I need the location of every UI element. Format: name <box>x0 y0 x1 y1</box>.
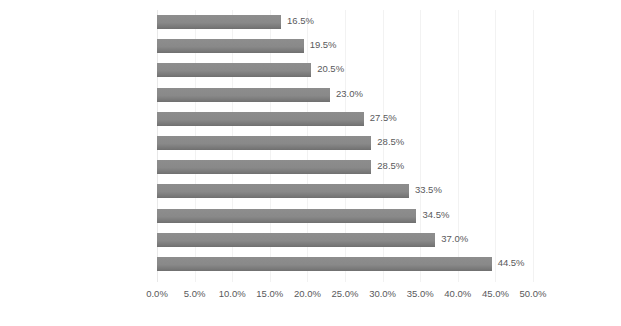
bar-row: 28.5% <box>157 155 533 179</box>
bar-value-label: 20.5% <box>317 61 344 77</box>
x-tick-label: 10.0% <box>219 286 246 302</box>
bar[interactable] <box>157 257 492 271</box>
x-axis: 0.0%5.0%10.0%15.0%20.0%25.0%30.0%35.0%40… <box>157 286 533 302</box>
bar[interactable] <box>157 136 371 150</box>
x-tick-label: 25.0% <box>332 286 359 302</box>
bar[interactable] <box>157 63 311 77</box>
bar-row: 44.5% <box>157 252 533 276</box>
bar[interactable] <box>157 112 364 126</box>
bar-row: 28.5% <box>157 131 533 155</box>
bar[interactable] <box>157 209 416 223</box>
bar[interactable] <box>157 15 281 29</box>
x-tick-label: 5.0% <box>184 286 206 302</box>
bar[interactable] <box>157 233 435 247</box>
bar-row: 20.5% <box>157 58 533 82</box>
x-tick-label: 20.0% <box>294 286 321 302</box>
bar[interactable] <box>157 160 371 174</box>
bar-row: 27.5% <box>157 107 533 131</box>
bar-row: 37.0% <box>157 228 533 252</box>
bar-row: 34.5% <box>157 204 533 228</box>
plot-area: 16.5%19.5%20.5%23.0%27.5%28.5%28.5%33.5%… <box>157 10 533 282</box>
bar-value-label: 44.5% <box>498 255 525 271</box>
bar-value-label: 34.5% <box>422 207 449 223</box>
bar-value-label: 19.5% <box>310 37 337 53</box>
bar[interactable] <box>157 88 330 102</box>
bar-row: 19.5% <box>157 34 533 58</box>
x-tick-label: 40.0% <box>444 286 471 302</box>
x-tick-label: 35.0% <box>407 286 434 302</box>
x-tick-label: 45.0% <box>482 286 509 302</box>
bar-value-label: 28.5% <box>377 158 404 174</box>
x-tick-label: 15.0% <box>256 286 283 302</box>
x-tick-label: 50.0% <box>520 286 547 302</box>
bar-value-label: 28.5% <box>377 134 404 150</box>
x-tick-label: 30.0% <box>369 286 396 302</box>
bar[interactable] <box>157 184 409 198</box>
bar-value-label: 27.5% <box>370 110 397 126</box>
bar-chart: Managing DemandsOthersCollecting DataCro… <box>0 0 621 326</box>
bar-value-label: 23.0% <box>336 86 363 102</box>
bar[interactable] <box>157 39 304 53</box>
x-tick-label: 0.0% <box>146 286 168 302</box>
bar-value-label: 33.5% <box>415 182 442 198</box>
gridline <box>533 10 534 282</box>
bar-row: 16.5% <box>157 10 533 34</box>
bar-value-label: 16.5% <box>287 13 314 29</box>
bar-value-label: 37.0% <box>441 231 468 247</box>
bar-row: 33.5% <box>157 179 533 203</box>
bar-row: 23.0% <box>157 83 533 107</box>
